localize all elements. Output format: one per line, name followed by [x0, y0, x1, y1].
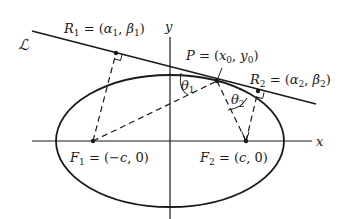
f2-to-r2: [246, 91, 258, 141]
label-theta1: θ1: [181, 78, 195, 95]
label-f2: F2 = (c, 0): [199, 150, 268, 167]
label-r1: R1 = (α1, β1): [63, 21, 145, 38]
f1-to-r1: [93, 53, 116, 141]
p-label-pointer: [218, 68, 222, 78]
ellipse-reflection-diagram: ℒ y x R1 = (α1, β1) P = (x0, y0) R2 = (α…: [0, 0, 343, 219]
point-r1: [114, 51, 118, 55]
right-angle-marker-r1: [115, 55, 123, 61]
label-theta2: θ2: [231, 92, 245, 109]
point-r2: [256, 89, 260, 93]
label-p: P = (x0, y0): [185, 48, 259, 65]
x-axis-label: x: [316, 134, 324, 149]
point-p: [215, 79, 219, 83]
label-f1: F1 = (−c, 0): [69, 150, 149, 167]
label-r2: R2 = (α2, β2): [249, 72, 331, 89]
point-f1: [91, 139, 95, 143]
right-angle-marker-r2: [257, 93, 264, 99]
arrowhead-f2: [242, 132, 249, 141]
f1-to-p: [93, 81, 217, 141]
tangent-line: [32, 31, 316, 104]
y-axis-label: y: [164, 19, 173, 34]
line-label-L: ℒ: [18, 36, 30, 54]
